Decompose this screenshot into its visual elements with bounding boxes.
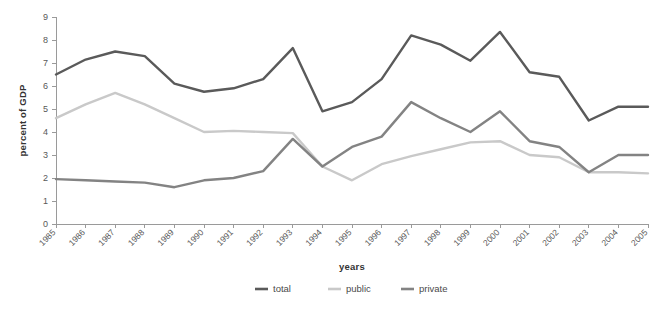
y-axis-ticks: 0123456789 <box>43 12 56 229</box>
y-tick-label: 6 <box>43 81 48 91</box>
x-tick-label: 2004 <box>599 227 620 248</box>
y-tick-label: 4 <box>43 127 48 137</box>
series-line-private <box>56 102 648 187</box>
legend-label-public[interactable]: public <box>346 283 371 294</box>
series-line-public <box>56 93 648 180</box>
x-axis-ticks: 1985198619871988198919901991199219931994… <box>37 224 650 248</box>
series-lines <box>56 32 648 187</box>
x-tick-label: 1988 <box>126 227 147 248</box>
x-tick-label: 1995 <box>333 227 354 248</box>
x-tick-label: 1990 <box>185 227 206 248</box>
line-chart: 0123456789 19851986198719881989199019911… <box>0 0 660 312</box>
y-tick-label: 5 <box>43 104 48 114</box>
x-tick-label: 2003 <box>570 227 591 248</box>
chart-canvas: 0123456789 19851986198719881989199019911… <box>0 0 660 312</box>
legend-label-private[interactable]: private <box>419 283 448 294</box>
x-tick-label: 1985 <box>37 227 58 248</box>
y-tick-label: 0 <box>43 219 48 229</box>
x-tick-label: 1987 <box>96 227 117 248</box>
x-tick-label: 1996 <box>363 227 384 248</box>
x-tick-label: 1986 <box>67 227 88 248</box>
x-tick-label: 2005 <box>629 227 650 248</box>
y-tick-label: 7 <box>43 58 48 68</box>
x-tick-label: 1989 <box>155 227 176 248</box>
series-line-total <box>56 32 648 121</box>
x-tick-label: 1998 <box>422 227 443 248</box>
x-tick-label: 1994 <box>303 227 324 248</box>
chart-legend: totalpublicprivate <box>255 283 448 294</box>
y-tick-label: 3 <box>43 150 48 160</box>
x-tick-label: 1999 <box>451 227 472 248</box>
x-tick-label: 2002 <box>540 227 561 248</box>
x-axis-title: years <box>339 261 365 272</box>
legend-label-total[interactable]: total <box>273 283 291 294</box>
x-tick-label: 1992 <box>244 227 265 248</box>
x-tick-label: 1997 <box>392 227 413 248</box>
y-tick-label: 9 <box>43 12 48 22</box>
y-tick-label: 8 <box>43 35 48 45</box>
x-tick-label: 2000 <box>481 227 502 248</box>
x-tick-label: 2001 <box>511 227 532 248</box>
y-tick-label: 2 <box>43 173 48 183</box>
x-tick-label: 1993 <box>274 227 295 248</box>
y-axis-title: percent of GDP <box>17 84 28 156</box>
y-tick-label: 1 <box>43 196 48 206</box>
x-tick-label: 1991 <box>215 227 236 248</box>
